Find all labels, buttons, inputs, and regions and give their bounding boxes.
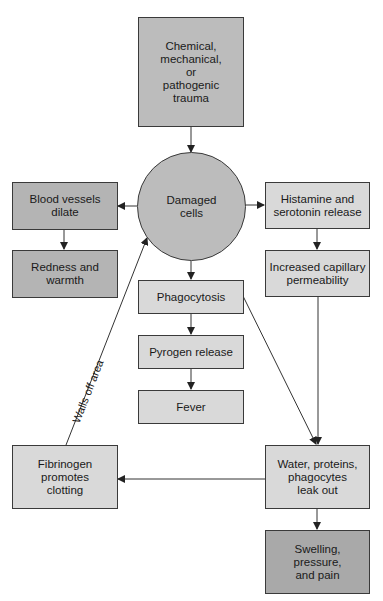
- node-leak-out-label: Water, proteins, phagocytes leak out: [277, 458, 357, 497]
- node-trauma: Chemical, mechanical, or pathogenic trau…: [138, 17, 244, 127]
- node-histamine-label: Histamine and serotonin release: [273, 193, 361, 219]
- node-fibrinogen-label: Fibrinogen promotes clotting: [38, 458, 92, 497]
- node-trauma-label: Chemical, mechanical, or pathogenic trau…: [160, 40, 221, 105]
- node-damaged-cells-label: Damaged cells: [167, 194, 217, 220]
- node-phagocytosis-label: Phagocytosis: [157, 291, 225, 304]
- node-swelling-label: Swelling, pressure, and pain: [294, 543, 342, 582]
- node-fever-label: Fever: [176, 401, 205, 414]
- node-swelling: Swelling, pressure, and pain: [265, 530, 370, 594]
- node-pyrogen-label: Pyrogen release: [149, 346, 233, 359]
- node-permeability-label: Increased capillary permeability: [270, 261, 366, 287]
- node-redness: Redness and warmth: [12, 250, 118, 298]
- node-pyrogen: Pyrogen release: [138, 335, 244, 369]
- node-fibrinogen: Fibrinogen promotes clotting: [12, 445, 118, 509]
- node-redness-label: Redness and warmth: [31, 261, 99, 287]
- edge-phagocytosis-to-leak-out: [243, 296, 316, 444]
- node-blood-vessels: Blood vessels dilate: [12, 182, 118, 230]
- node-fever: Fever: [138, 390, 244, 424]
- node-blood-vessels-label: Blood vessels dilate: [30, 193, 101, 219]
- node-histamine: Histamine and serotonin release: [265, 182, 370, 229]
- node-damaged-cells: Damaged cells: [137, 152, 246, 261]
- node-permeability: Increased capillary permeability: [265, 250, 370, 297]
- node-phagocytosis: Phagocytosis: [138, 280, 244, 314]
- node-leak-out: Water, proteins, phagocytes leak out: [265, 445, 370, 509]
